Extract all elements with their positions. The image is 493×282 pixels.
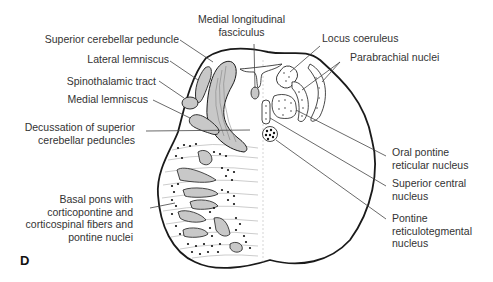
label-line: fasciculus xyxy=(198,26,285,39)
label-line: nucleus xyxy=(392,237,472,250)
label-superior-cerebellar-peduncle: Superior cerebellar peduncle xyxy=(45,33,179,46)
label-line: Superior cerebellar peduncle xyxy=(45,33,179,46)
panel-letter: D xyxy=(20,253,29,268)
label-line: Medial longitudinal xyxy=(198,13,285,26)
label-line: Locus coeruleus xyxy=(322,32,398,45)
label-line: Parabrachial nuclei xyxy=(350,51,439,64)
label-line: cerebellar peduncles xyxy=(25,134,135,147)
label-line: corticospinal fibers and xyxy=(26,218,133,231)
label-line: pontine nuclei xyxy=(26,231,133,244)
label-locus-coeruleus: Locus coeruleus xyxy=(322,32,398,45)
label-parabrachial-nuclei: Parabrachial nuclei xyxy=(350,51,439,64)
oral-pontine-reticular-shape xyxy=(272,94,296,118)
label-line: Decussation of superior xyxy=(25,121,135,134)
label-line: reticular nucleus xyxy=(392,159,468,172)
label-line: reticulotegmental xyxy=(392,225,472,238)
label-line: Superior central xyxy=(392,177,466,190)
label-line: Spinothalamic tract xyxy=(67,75,156,88)
superior-central-shape xyxy=(262,100,270,124)
label-line: Basal pons with xyxy=(26,193,133,206)
label-oral-pontine-reticular-nucleus: Oral pontine reticular nucleus xyxy=(392,146,468,171)
label-line: nucleus xyxy=(392,190,466,203)
label-line: Oral pontine xyxy=(392,146,468,159)
label-spinothalamic-tract: Spinothalamic tract xyxy=(67,75,156,88)
mlf-shape xyxy=(251,87,259,99)
label-line: corticopontine and xyxy=(26,206,133,219)
label-decussation-superior-cerebellar-peduncles: Decussation of superior cerebellar pedun… xyxy=(25,121,135,146)
label-medial-lemniscus: Medial lemniscus xyxy=(67,93,148,106)
label-lateral-lemniscus: Lateral lemniscus xyxy=(87,53,169,66)
label-line: Lateral lemniscus xyxy=(87,53,169,66)
label-medial-longitudinal-fasciculus: Medial longitudinal fasciculus xyxy=(198,13,285,38)
label-pontine-reticulotegmental-nucleus: Pontine reticulotegmental nucleus xyxy=(392,212,472,250)
label-line: Medial lemniscus xyxy=(67,93,148,106)
label-line: Pontine xyxy=(392,212,472,225)
label-basal-pons: Basal pons with corticopontine and corti… xyxy=(26,193,133,243)
label-superior-central-nucleus: Superior central nucleus xyxy=(392,177,466,202)
spinothalamic-tract-shape xyxy=(182,97,198,109)
